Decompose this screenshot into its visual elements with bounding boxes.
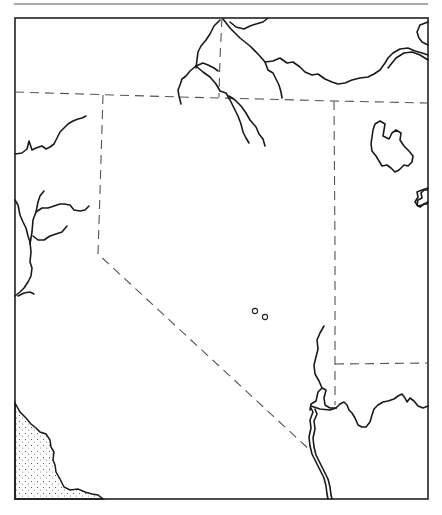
western-river-north <box>15 116 86 154</box>
northern-border <box>15 92 428 103</box>
owyhee-river <box>196 66 249 143</box>
river-top-branch <box>230 18 268 29</box>
snake-tributary-northeast <box>388 52 428 68</box>
owyhee-west-branch <box>178 66 196 104</box>
colorado-river-upper <box>336 394 428 427</box>
eastern-edge-lake <box>417 190 428 207</box>
pit-river-branch-c <box>33 226 67 240</box>
coastline <box>15 403 103 499</box>
owyhee-river-north <box>196 20 220 68</box>
utah-arizona-border <box>335 363 428 364</box>
outline-map <box>0 0 442 515</box>
nevada-west-border <box>98 95 312 452</box>
rivers <box>15 18 428 499</box>
nevada-east-border <box>334 101 335 405</box>
snake-river <box>223 19 428 84</box>
north-vertical-border <box>219 18 222 97</box>
pit-river-upper <box>15 200 30 242</box>
snake-headwater-north <box>417 22 428 45</box>
great-salt-lake <box>371 121 413 172</box>
virgin-river <box>314 326 324 388</box>
state-borders <box>15 18 428 452</box>
snake-tributary-south <box>265 62 282 98</box>
map-point-marker <box>252 308 257 313</box>
sacramento-river <box>15 242 32 296</box>
point-markers <box>252 308 267 319</box>
map-point-marker <box>262 314 267 319</box>
colorado-river-lower-right <box>313 409 332 499</box>
pit-river-branch-a <box>30 191 44 244</box>
colorado-river-lower-left <box>309 408 328 499</box>
pit-river-branch-b <box>36 204 89 212</box>
